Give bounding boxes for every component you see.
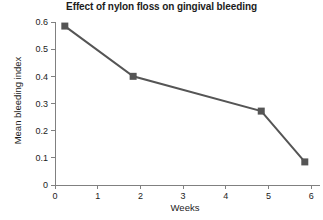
x-axis: 0123456 (52, 185, 319, 201)
y-tick-label: 0.6 (35, 17, 48, 27)
y-tick-label: 0.1 (35, 153, 48, 163)
x-tick-label: 0 (52, 191, 57, 201)
plot-area: 00.10.20.30.40.50.6 0123456 (0, 0, 323, 220)
series-line (65, 26, 305, 162)
y-tick-label: 0.2 (35, 126, 48, 136)
chart-figure: Effect of nylon floss on gingival bleedi… (0, 0, 323, 220)
x-tick-label: 6 (309, 191, 314, 201)
x-tick-label: 4 (223, 191, 228, 201)
y-tick-label: 0.5 (35, 44, 48, 54)
data-point-marker (61, 23, 68, 30)
x-tick-label: 1 (95, 191, 100, 201)
x-tick-label: 5 (266, 191, 271, 201)
data-point-marker (258, 108, 265, 115)
x-tick-label: 3 (181, 191, 186, 201)
x-tick-label: 2 (138, 191, 143, 201)
y-axis: 00.10.20.30.40.50.6 (35, 17, 55, 190)
y-tick-label: 0.3 (35, 99, 48, 109)
y-tick-label: 0.4 (35, 72, 48, 82)
data-series (61, 23, 308, 166)
data-point-marker (301, 158, 308, 165)
data-point-marker (130, 73, 137, 80)
y-tick-label: 0 (43, 180, 48, 190)
